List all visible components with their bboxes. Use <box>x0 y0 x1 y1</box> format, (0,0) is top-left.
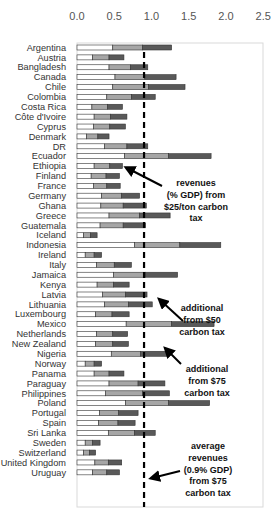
bar-row <box>77 292 147 297</box>
segment-75 <box>112 312 129 317</box>
segment-25 <box>77 391 105 396</box>
category-label: Italy <box>49 260 66 270</box>
segment-25 <box>77 252 85 257</box>
category-label: Sri Lanka <box>27 428 67 438</box>
segment-75 <box>114 262 131 267</box>
segment-25 <box>77 75 115 80</box>
segment-25 <box>77 282 97 287</box>
category-label: Finland <box>36 171 66 181</box>
segment-25 <box>77 243 134 248</box>
segment-25 <box>77 213 109 218</box>
segment-50 <box>93 470 107 475</box>
segment-75 <box>143 45 172 50</box>
category-label: Switzerland <box>19 448 67 458</box>
segment-50 <box>97 282 113 287</box>
segment-75 <box>122 193 140 198</box>
segment-75 <box>106 173 119 178</box>
segment-50 <box>105 302 129 307</box>
segment-25 <box>77 351 111 356</box>
annotation-line: average <box>191 441 225 451</box>
segment-50 <box>91 173 106 178</box>
bar-row <box>77 312 129 317</box>
segment-50 <box>96 332 112 337</box>
category-label: Germany <box>28 191 66 201</box>
category-label: Colombia <box>27 92 67 102</box>
category-label: Ghana <box>38 201 66 211</box>
bar-row <box>77 223 146 228</box>
segment-25 <box>77 183 93 188</box>
segment-50 <box>99 411 118 416</box>
bar-row <box>77 85 185 90</box>
annotation-line: additional <box>186 364 229 374</box>
category-label: Ireland <box>38 250 66 260</box>
segment-75 <box>113 341 129 346</box>
segment-50 <box>102 193 122 198</box>
segment-50 <box>85 361 94 366</box>
category-label: United Kingdom <box>1 458 67 468</box>
segment-50 <box>125 154 169 159</box>
segment-25 <box>77 65 109 70</box>
bar-row <box>77 65 148 70</box>
annotation: averagerevenues(0.9% GDP)from $75carbon … <box>152 441 232 498</box>
category-label: Panama <box>32 369 67 379</box>
segment-25 <box>77 173 91 178</box>
segment-75 <box>107 470 120 475</box>
segment-75 <box>110 124 126 129</box>
segment-25 <box>77 470 93 475</box>
segment-25 <box>77 164 94 169</box>
segment-75 <box>123 203 146 208</box>
segment-50 <box>84 450 90 455</box>
segment-75 <box>118 420 135 425</box>
segment-50 <box>96 312 112 317</box>
bar-row <box>77 341 128 346</box>
segment-50 <box>93 183 106 188</box>
segment-50 <box>93 124 109 129</box>
category-label: Kenya <box>40 280 67 290</box>
bar-row <box>77 440 100 445</box>
x-tick-label: 1.5 <box>181 10 196 22</box>
segment-25 <box>77 381 109 386</box>
x-tick-label: 0.5 <box>107 10 122 22</box>
segment-25 <box>77 134 87 139</box>
segment-50 <box>100 223 123 228</box>
segment-50 <box>94 164 110 169</box>
annotation-line: $25/ton carbon <box>164 202 228 212</box>
segment-75 <box>123 223 145 228</box>
segment-50 <box>96 341 113 346</box>
segment-75 <box>110 164 123 169</box>
bar-row <box>77 55 124 60</box>
bar-row <box>77 361 102 366</box>
category-label: Mexico <box>37 319 66 329</box>
segment-25 <box>77 114 94 119</box>
annotation: additionalfrom $75carbon tax <box>166 349 230 398</box>
category-label: Ecuador <box>32 151 66 161</box>
category-label: Spain <box>43 418 67 428</box>
category-label: Austria <box>37 53 66 63</box>
category-label: Nigeria <box>37 349 67 359</box>
bar-row <box>77 272 178 277</box>
segment-50 <box>99 420 118 425</box>
segment-50 <box>107 94 132 99</box>
segment-50 <box>102 292 125 297</box>
category-label: Norway <box>35 359 67 369</box>
bar-row <box>77 104 122 109</box>
category-label: New Zealand <box>12 339 66 349</box>
annotation-line: carbon tax <box>185 488 231 498</box>
segment-50 <box>126 322 171 327</box>
annotation-line: revenues <box>188 453 228 463</box>
arrow-icon <box>160 300 183 321</box>
annotation-line: carbon tax <box>184 388 230 398</box>
segment-25 <box>77 154 125 159</box>
segment-75 <box>98 134 109 139</box>
annotation-line: (% GDP) from <box>167 190 226 200</box>
segment-75 <box>90 233 97 238</box>
segment-25 <box>77 94 107 99</box>
segment-25 <box>77 332 96 337</box>
segment-25 <box>77 272 114 277</box>
category-label: Ethiopia <box>33 161 67 171</box>
category-label: Cyprus <box>37 122 67 132</box>
bar-row <box>77 114 127 119</box>
annotation-line: additional <box>181 303 224 313</box>
annotation-line: from $75 <box>189 476 227 486</box>
segment-50 <box>93 55 109 60</box>
